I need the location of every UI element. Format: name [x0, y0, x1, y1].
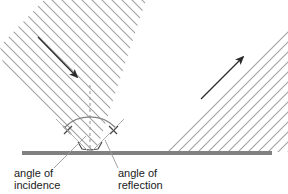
reflected-ray-edge: [90, 119, 124, 153]
incident-ray-edge: [56, 119, 90, 153]
angle-of-reflection-label-line1: angle of: [118, 167, 158, 179]
angle-of-reflection-label-line2: reflection: [118, 179, 163, 191]
incident-beam-hatching: [0, 0, 288, 194]
angle-of-incidence-label-line1: angle of: [14, 167, 54, 179]
incident-ray-arrow: [38, 37, 77, 77]
reflection-diagram: angle of incidence angle of reflection: [0, 0, 288, 194]
reflected-beam-hatching: [100, 0, 288, 194]
angle-of-incidence-label-line2: incidence: [14, 179, 60, 191]
